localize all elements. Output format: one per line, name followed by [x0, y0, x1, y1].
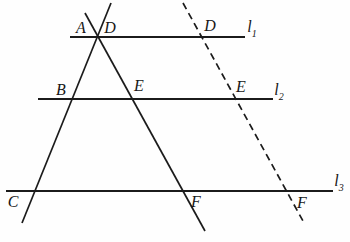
transversal-a-e-f	[85, 13, 205, 231]
point-label-f-solid: F	[191, 194, 201, 210]
point-label-a: A	[76, 20, 86, 36]
transversal-d-e-f-dashed	[183, 3, 303, 221]
line-label-l1-subscript: 1	[252, 28, 257, 39]
point-label-d-dashed: D	[204, 18, 216, 34]
point-label-b: B	[56, 82, 66, 98]
point-label-e-solid: E	[134, 78, 144, 94]
line-label-l1: l1	[247, 19, 256, 38]
point-label-c: C	[8, 194, 19, 210]
geometry-figure: ADDBEECFFl1l2l3	[0, 0, 350, 242]
point-label-f-dashed: F	[297, 195, 307, 211]
point-label-d-left: D	[104, 20, 116, 36]
point-label-e-dashed: E	[236, 79, 246, 95]
line-label-l2-subscript: 2	[279, 91, 284, 102]
line-label-l3: l3	[334, 173, 343, 192]
line-label-l3-subscript: 3	[339, 182, 344, 193]
line-label-l2: l2	[274, 82, 283, 101]
